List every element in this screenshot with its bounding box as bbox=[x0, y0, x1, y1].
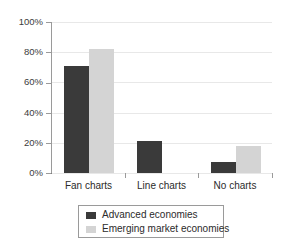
legend-swatch-icon bbox=[86, 212, 96, 219]
y-axis-tick-label: 0% bbox=[0, 168, 43, 178]
x-axis-category-separator bbox=[198, 173, 199, 178]
x-axis-category-separator bbox=[125, 173, 126, 178]
bar-advanced-line-charts bbox=[137, 141, 162, 173]
x-axis-category-label: Fan charts bbox=[52, 180, 125, 192]
legend-item-label: Emerging market economies bbox=[102, 223, 229, 235]
bar-emerging-no-charts bbox=[236, 146, 261, 173]
y-axis-tick-label: 60% bbox=[0, 77, 43, 87]
x-axis-category-label: Line charts bbox=[125, 180, 198, 192]
y-axis-tick-label: 20% bbox=[0, 138, 43, 148]
chart-legend: Advanced economies Emerging market econo… bbox=[78, 205, 224, 238]
legend-item-advanced-economies: Advanced economies bbox=[86, 208, 198, 222]
legend-swatch-icon bbox=[86, 226, 96, 233]
bar-chart: 100% 80% 60% 40% 20% 0% Fan charts Line … bbox=[0, 0, 289, 249]
y-axis-tick-label: 100% bbox=[0, 17, 43, 27]
bar-advanced-no-charts bbox=[211, 162, 236, 173]
plot-area bbox=[52, 22, 272, 173]
x-axis-category-label: No charts bbox=[198, 180, 272, 192]
gridline bbox=[52, 173, 272, 174]
bar-emerging-fan-charts bbox=[89, 49, 114, 173]
gridline bbox=[52, 52, 272, 53]
legend-item-emerging-market-economies: Emerging market economies bbox=[86, 222, 229, 236]
y-axis-tick-label: 40% bbox=[0, 108, 43, 118]
y-axis-tick-label: 80% bbox=[0, 47, 43, 57]
bar-advanced-fan-charts bbox=[64, 66, 89, 173]
legend-item-label: Advanced economies bbox=[102, 209, 198, 221]
gridline bbox=[52, 22, 272, 23]
x-axis-category-separator bbox=[272, 173, 273, 178]
